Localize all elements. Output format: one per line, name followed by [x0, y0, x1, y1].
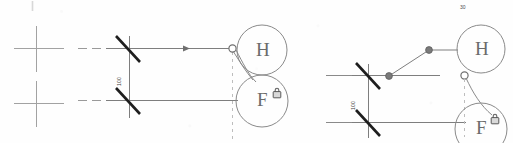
- schematic-vector-layer: [0, 0, 513, 143]
- leader-curve-b-left: [236, 50, 256, 82]
- leader-curve-right: [466, 78, 492, 115]
- node-pivot-lower-right[interactable]: [386, 73, 393, 80]
- schematic-canvas: H F H F 100 100 30: [0, 0, 513, 143]
- terminal-node-h-left[interactable]: [229, 45, 236, 52]
- lock-icon-left[interactable]: [273, 88, 281, 98]
- crosshair-upper: [14, 26, 64, 72]
- lock-icon-right[interactable]: [491, 114, 499, 124]
- device-label-h-right: H: [475, 38, 489, 60]
- device-label-h-left: H: [256, 39, 270, 61]
- link-arm-right: [389, 50, 429, 76]
- terminal-node-f-right[interactable]: [461, 72, 468, 79]
- node-pivot-upper-right[interactable]: [426, 47, 433, 54]
- dimension-label-right: 100: [350, 101, 356, 110]
- device-label-f-left: F: [257, 89, 268, 111]
- corner-label-right: 30: [460, 4, 466, 10]
- device-label-f-right: F: [476, 117, 487, 139]
- flow-arrow-left: [183, 45, 190, 51]
- dimension-label-left: 100: [116, 77, 122, 86]
- left-schematic: [14, 1, 288, 142]
- crosshair-lower: [14, 81, 64, 127]
